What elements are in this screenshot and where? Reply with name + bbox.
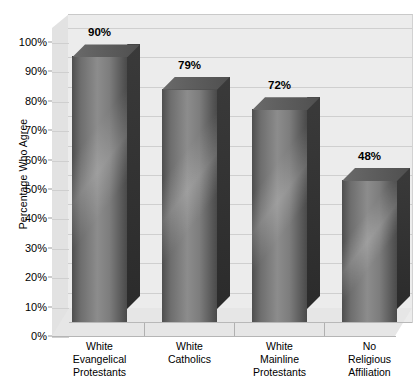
gridline-depth <box>52 293 69 309</box>
y-tick-label: 10% <box>0 301 47 313</box>
gridline-depth <box>52 234 69 250</box>
y-axis-ticks: 0%10%20%30%40%50%60%70%80%90%100% <box>0 0 47 383</box>
x-axis-category-line: White <box>236 340 323 353</box>
x-axis-category-line: Protestants <box>236 366 323 379</box>
x-axis-category-line: Religious <box>326 353 413 366</box>
bar-side-face <box>127 44 140 309</box>
y-tick-label: 0% <box>0 330 47 342</box>
plot-floor-edge <box>69 322 412 323</box>
x-axis-category-line: Mainline <box>236 353 323 366</box>
bar-value-label: 90% <box>88 26 111 38</box>
gridline-depth <box>52 146 69 162</box>
x-axis-category-label: WhiteEvangelicalProtestants <box>56 340 143 380</box>
x-axis-category-label: WhiteMainlineProtestants <box>236 340 323 380</box>
y-tick-label: 50% <box>0 183 47 195</box>
bar-front-face <box>162 89 217 322</box>
plot-floor-front-line <box>52 336 396 337</box>
y-tick-label: 30% <box>0 242 47 254</box>
y-tick-label: 60% <box>0 154 47 166</box>
gridline-depth <box>52 175 69 191</box>
bar-value-label: 72% <box>268 79 291 91</box>
x-axis-category-label: WhiteCatholics <box>146 340 233 366</box>
gridline-depth <box>52 322 69 338</box>
y-tick-label: 90% <box>0 65 47 77</box>
bar[interactable]: 72% <box>252 110 307 322</box>
bar-front-face <box>252 109 307 322</box>
gridline-depth <box>52 204 69 220</box>
x-axis-separator <box>144 323 145 336</box>
x-axis-category-label: NoReligiousAffiliation <box>326 340 413 380</box>
bar[interactable]: 48% <box>342 181 397 322</box>
x-axis-category-line: Affiliation <box>326 366 413 379</box>
x-axis-category-line: Protestants <box>56 366 143 379</box>
y-tick-label: 100% <box>0 36 47 48</box>
bar-value-label: 48% <box>358 150 381 162</box>
gridline-depth <box>52 87 69 103</box>
y-tick-label: 70% <box>0 124 47 136</box>
plot-area: 90%79%72%48% <box>52 14 412 336</box>
bar[interactable]: 90% <box>72 57 127 322</box>
x-axis-separator <box>324 323 325 336</box>
bar-side-face <box>307 97 320 309</box>
bar-side-face <box>217 77 230 309</box>
y-tick-label: 40% <box>0 212 47 224</box>
gridline <box>68 28 412 29</box>
x-axis-category-line: Catholics <box>146 353 233 366</box>
bar-value-label: 79% <box>178 59 201 71</box>
bar-chart: Percentage Who Agree 0%10%20%30%40%50%60… <box>0 0 419 383</box>
y-tick-label: 80% <box>0 95 47 107</box>
y-tick-label: 20% <box>0 271 47 283</box>
gridline-depth <box>52 263 69 279</box>
x-axis-category-line: No <box>326 340 413 353</box>
bar-front-face <box>72 56 127 322</box>
x-axis-category-line: White <box>56 340 143 353</box>
gridline-depth <box>52 28 69 44</box>
gridline-depth <box>52 57 69 73</box>
gridline-depth <box>52 116 69 132</box>
bar-side-face <box>397 168 410 309</box>
x-axis-labels: WhiteEvangelicalProtestantsWhiteCatholic… <box>52 340 412 383</box>
x-axis-category-line: Evangelical <box>56 353 143 366</box>
bar[interactable]: 79% <box>162 90 217 322</box>
x-axis-category-line: White <box>146 340 233 353</box>
bar-front-face <box>342 180 397 322</box>
x-axis-separator <box>234 323 235 336</box>
